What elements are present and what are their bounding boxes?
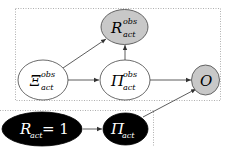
svg-text:obs: obs: [123, 17, 137, 26]
edge-pi-act-to-o: [143, 89, 196, 117]
svg-text:act: act: [41, 83, 54, 92]
node-xi-obs: Ξ obs act: [18, 60, 68, 100]
svg-text:Ξ: Ξ: [29, 72, 41, 90]
node-r-obs: R obs act: [101, 10, 148, 45]
node-pi-act: Π act: [103, 113, 148, 145]
svg-text:O: O: [200, 72, 212, 90]
node-pi-obs: Π obs act: [100, 60, 150, 100]
edge-xi-to-r-obs: [63, 39, 106, 68]
svg-text:obs: obs: [41, 70, 55, 79]
svg-text:act: act: [123, 83, 136, 92]
svg-text:= 1: = 1: [42, 120, 69, 138]
svg-text:obs: obs: [123, 70, 137, 79]
svg-text:act: act: [123, 30, 136, 39]
node-r-act: R act = 1: [2, 112, 82, 146]
svg-text:R: R: [110, 19, 122, 37]
node-o: O: [192, 65, 220, 95]
graphical-model-diagram: R obs act Ξ obs act Π obs act O R act = …: [0, 0, 228, 147]
svg-text:act: act: [122, 131, 135, 140]
